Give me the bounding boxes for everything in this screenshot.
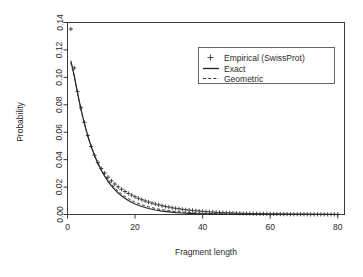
y-tick-label: 0.06 [55,124,65,141]
x-tick-label: 80 [333,222,343,232]
probability-distribution-chart: 0.000.020.040.060.080.100.120.14 0204060… [0,0,363,277]
y-tick-label: 0.02 [55,179,65,196]
chart-legend: Empirical (SwissProt) Exact Geometric [199,48,335,84]
y-tick-label: 0.08 [55,96,65,113]
x-tick-label: 40 [198,222,208,232]
chart-container: 0.000.020.040.060.080.100.120.14 0204060… [0,0,363,277]
legend-label-geometric: Geometric [224,74,264,84]
y-axis-title: Probability [15,101,25,141]
y-tick-label: 0.04 [55,151,65,168]
x-tick-label: 20 [130,222,140,232]
x-tick-label: 60 [265,222,275,232]
y-tick-label: 0.14 [55,14,65,31]
y-tick-label: 0.00 [55,206,65,223]
y-tick-label: 0.10 [55,69,65,86]
x-axis-title: Fragment length [175,247,237,257]
legend-label-empirical: Empirical (SwissProt) [224,53,305,63]
legend-label-exact: Exact [224,64,246,74]
x-tick-label: 0 [65,222,70,232]
y-tick-label: 0.12 [55,41,65,58]
